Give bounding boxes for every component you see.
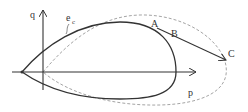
ec-leader-line xyxy=(66,24,69,34)
point-a-label: A xyxy=(151,18,159,29)
solid-yield-curve xyxy=(22,22,176,99)
ec-label: e xyxy=(66,12,71,23)
ec-label-subscript: c xyxy=(72,18,75,26)
q-axis-label: q xyxy=(30,9,35,20)
loading-path-arrow xyxy=(157,28,226,60)
vertex-point xyxy=(21,71,24,74)
p-axis-label: p xyxy=(188,87,193,98)
point-c-label: C xyxy=(228,48,235,59)
dashed-expanded-curve xyxy=(43,15,226,105)
yield-diagram: q p e c A B C xyxy=(0,0,248,112)
point-b-label: B xyxy=(171,28,178,39)
